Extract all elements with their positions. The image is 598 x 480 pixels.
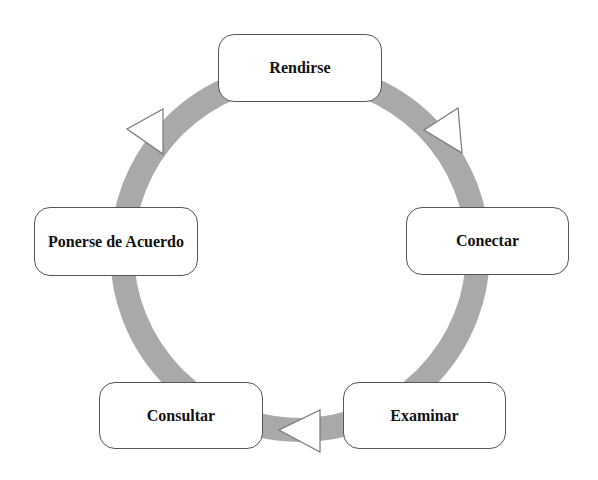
node-consultar: Consultar (99, 382, 263, 449)
node-examinar: Examinar (343, 382, 506, 449)
node-label: Conectar (456, 232, 519, 250)
node-label: Rendirse (269, 59, 330, 77)
node-ponerse-de-acuerdo: Ponerse de Acuerdo (34, 207, 198, 276)
node-label: Examinar (390, 407, 458, 425)
arrow-icon-examinar-to-consultar (279, 410, 320, 452)
node-label: Ponerse de Acuerdo (48, 233, 184, 251)
node-conectar: Conectar (406, 207, 569, 275)
node-rendirse: Rendirse (218, 34, 382, 102)
node-label: Consultar (147, 407, 215, 425)
